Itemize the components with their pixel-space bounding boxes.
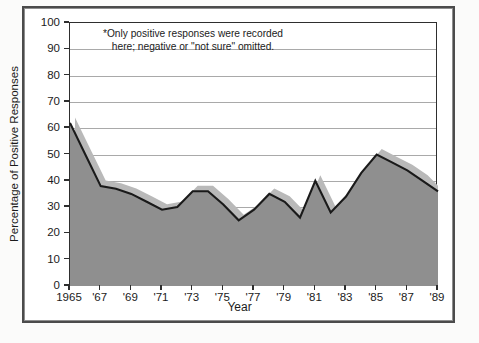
x-axis-tick [222, 285, 224, 290]
x-axis-tick [99, 285, 101, 290]
y-axis-tick-label: 10 [47, 253, 60, 265]
y-axis-tick-label: 40 [47, 174, 60, 186]
x-axis-tick [252, 285, 254, 290]
y-axis-tick-label: 80 [47, 69, 60, 81]
x-axis-tick [375, 285, 377, 290]
x-axis-tick [160, 285, 162, 290]
y-axis-tick-label: 50 [47, 148, 60, 160]
chart-annotation: *Only positive responses were recorded h… [78, 28, 308, 53]
x-axis-title: Year [0, 300, 479, 314]
y-axis-tick-label: 60 [47, 121, 60, 133]
x-axis-tick [130, 285, 132, 290]
x-axis-tick [406, 285, 408, 290]
chart-figure: Percentage of Positive Responses 0102030… [0, 0, 479, 343]
x-axis-tick [191, 285, 193, 290]
chart-annotation-line-2: here; negative or "not sure" omitted. [78, 41, 308, 54]
y-axis-tick-label: 100 [41, 16, 60, 28]
chart-annotation-line-1: *Only positive responses were recorded [78, 28, 308, 41]
x-axis-tick [68, 285, 70, 290]
series-area-chart [70, 23, 438, 286]
y-axis-title: Percentage of Positive Responses [8, 66, 20, 242]
y-axis-tick-label: 30 [47, 200, 60, 212]
y-axis-tick-label: 20 [47, 226, 60, 238]
series-area-fill [70, 123, 438, 286]
x-axis-tick [344, 285, 346, 290]
y-axis-tick-label: 90 [47, 42, 60, 54]
x-axis-tick [436, 285, 438, 290]
y-axis-tick-label: 0 [54, 279, 60, 291]
y-axis-tick-label: 70 [47, 95, 60, 107]
plot-area [69, 22, 437, 285]
x-axis-tick [283, 285, 285, 290]
x-axis-tick [314, 285, 316, 290]
